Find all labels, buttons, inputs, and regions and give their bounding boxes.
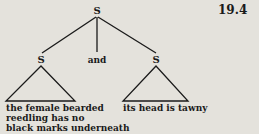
triangle-left xyxy=(6,66,75,101)
figure-number: 19.4 xyxy=(218,5,247,15)
root-node-label: S xyxy=(93,6,100,16)
branch-root-left xyxy=(42,17,96,53)
branch-root-right xyxy=(98,17,156,53)
left-node-label: S xyxy=(37,55,44,65)
left-leaf-line-3: black marks underneath xyxy=(6,123,130,133)
triangle-right xyxy=(123,66,188,101)
left-leaf-line-2: reedling has no xyxy=(6,113,84,123)
left-leaf-line-1: the female bearded xyxy=(6,103,104,113)
right-leaf-line-1: its head is tawny xyxy=(123,103,207,113)
right-node-label: S xyxy=(152,55,159,65)
conjunction-label: and xyxy=(88,55,107,65)
